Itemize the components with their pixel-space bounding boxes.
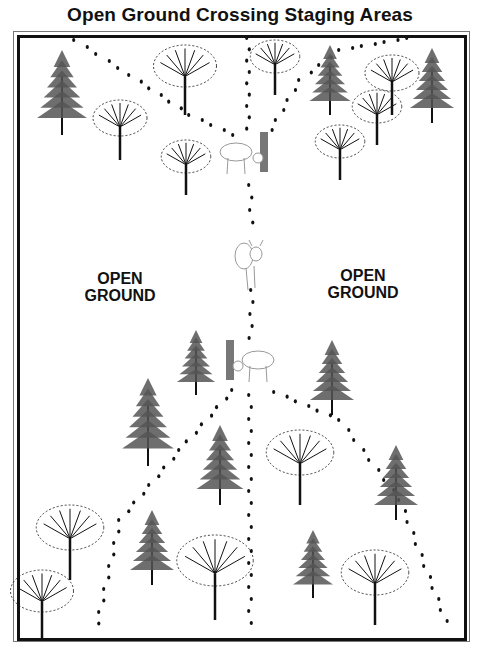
hoof-track-icon (160, 93, 163, 97)
hoof-track-icon (247, 465, 250, 469)
hoof-track-icon (250, 195, 253, 199)
hoof-track-icon (247, 537, 250, 541)
deciduous-tree-icon (11, 570, 74, 640)
hoof-track-icon (404, 509, 407, 513)
deer-rubbing-tree-right-icon (220, 132, 268, 174)
label-line-2: GROUND (318, 284, 408, 301)
deciduous-tree-icon (315, 125, 365, 180)
hoof-track-icon (446, 619, 449, 623)
hoof-track-icon (147, 86, 150, 90)
hoof-track-icon (247, 489, 250, 493)
hoof-track-icon (247, 609, 250, 613)
conifer-tree-icon (196, 425, 243, 505)
hoof-track-icon (162, 465, 165, 469)
hoof-track-icon (362, 448, 365, 452)
hoof-track-icon (250, 405, 253, 409)
hoof-track-icon (231, 133, 234, 137)
hoof-track-icon (107, 564, 110, 568)
hoof-track-icon (94, 52, 97, 56)
hoof-track-icon (421, 553, 424, 557)
conifer-tree-icon (177, 330, 215, 395)
label-line-1: OPEN (318, 267, 408, 284)
hoof-track-icon (185, 439, 188, 443)
conifer-tree-icon (130, 510, 174, 585)
trail-center (247, 183, 254, 225)
hoof-track-icon (429, 575, 432, 579)
hoof-track-icon (102, 587, 105, 591)
hoof-track-icon (245, 36, 248, 40)
hoof-track-icon (245, 127, 248, 131)
open-ground-label-left: OPEN GROUND (75, 270, 165, 304)
hoof-track-icon (250, 621, 253, 625)
hoof-track-icon (127, 509, 130, 513)
hoof-track-icon (251, 300, 254, 304)
hoof-track-icon (250, 477, 253, 481)
deer-rubbing-tree-left-icon (226, 340, 274, 382)
conifer-tree-icon (37, 50, 87, 135)
hoof-track-icon (200, 422, 203, 426)
hoof-track-icon (382, 478, 385, 482)
hoof-track-icon (167, 100, 170, 104)
terrain-scene (0, 0, 480, 650)
deciduous-tree-icon (250, 40, 300, 95)
hoof-track-icon (97, 621, 100, 625)
conifer-tree-icon (410, 48, 454, 123)
deciduous-tree-icon (177, 535, 254, 620)
hoof-track-icon (250, 453, 253, 457)
hoof-track-icon (248, 93, 251, 97)
hoof-track-icon (248, 115, 251, 119)
open-ground-label-right: OPEN GROUND (318, 267, 408, 301)
hoof-track-icon (117, 529, 120, 533)
hoof-track-icon (337, 418, 340, 422)
conifer-tree-icon (374, 445, 418, 520)
deciduous-tree-icon (36, 505, 104, 580)
hoof-track-icon (437, 597, 440, 601)
hoof-track-icon (439, 608, 442, 612)
hoof-track-icon (116, 66, 119, 70)
hoof-track-icon (180, 106, 183, 110)
hoof-track-icon (250, 597, 253, 601)
hoof-track-icon (422, 564, 425, 568)
hoof-track-icon (247, 441, 250, 445)
hoof-track-icon (310, 70, 313, 74)
hoof-track-icon (142, 492, 145, 496)
hoof-track-icon (412, 531, 415, 535)
hoof-track-icon (210, 414, 213, 418)
hoof-track-icon (215, 405, 218, 409)
hoof-track-icon (377, 468, 380, 472)
label-line-2: GROUND (75, 287, 165, 304)
hoof-track-icon (247, 183, 250, 187)
hoof-track-icon (127, 73, 130, 77)
deciduous-tree-icon (341, 550, 409, 625)
hoof-track-icon (297, 78, 300, 82)
hoof-track-icon (248, 47, 251, 51)
hoof-track-icon (157, 474, 160, 478)
hoof-track-icon (247, 561, 250, 565)
hoof-track-icon (294, 88, 297, 92)
hoof-track-icon (250, 501, 253, 505)
hoof-track-icon (248, 70, 251, 74)
hoof-track-icon (72, 38, 75, 42)
hoof-track-icon (250, 525, 253, 529)
conifer-tree-icon (310, 340, 354, 415)
hoof-track-icon (201, 118, 204, 122)
deer-facing-forward-icon (235, 240, 263, 290)
hoof-track-icon (117, 518, 120, 522)
trail-top-left (72, 38, 234, 137)
hoof-track-icon (147, 483, 150, 487)
hoof-track-icon (195, 431, 198, 435)
hoof-track-icon (382, 40, 385, 44)
hoof-track-icon (367, 458, 370, 462)
hoof-track-icon (307, 404, 310, 408)
hoof-track-icon (250, 573, 253, 577)
hoof-track-icon (245, 59, 248, 63)
hoof-track-icon (112, 541, 115, 545)
hoof-track-icon (187, 113, 190, 117)
hoof-track-icon (102, 598, 105, 602)
hoof-track-icon (294, 399, 297, 403)
hoof-track-icon (352, 438, 355, 442)
hoof-track-icon (285, 98, 288, 102)
hoof-track-icon (271, 128, 274, 132)
hoof-track-icon (172, 457, 175, 461)
hoof-track-icon (132, 500, 135, 504)
